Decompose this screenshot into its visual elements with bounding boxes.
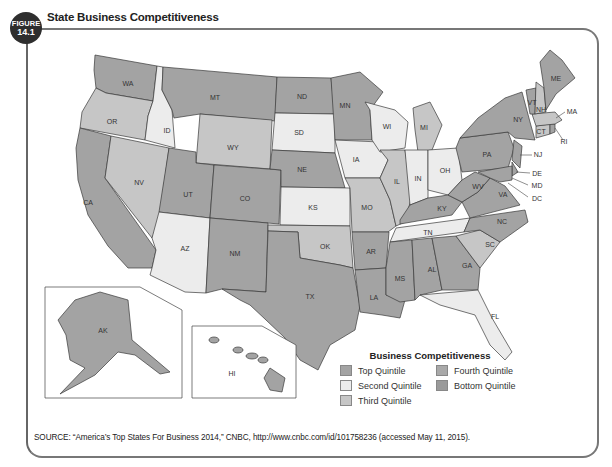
label-WI: WI xyxy=(383,123,392,130)
legend-label: Third Quintile xyxy=(358,396,412,406)
label-HI: HI xyxy=(229,370,236,377)
legend-item-third: Third Quintile xyxy=(340,395,436,406)
label-OR: OR xyxy=(107,118,118,125)
label-MT: MT xyxy=(210,94,221,101)
state-NY xyxy=(460,92,535,140)
label-VA: VA xyxy=(499,191,508,198)
label-CO: CO xyxy=(240,195,251,202)
label-AK: AK xyxy=(98,327,108,334)
label-ND: ND xyxy=(297,93,307,100)
label-MI: MI xyxy=(420,124,428,131)
label-FL: FL xyxy=(491,313,499,320)
label-MS: MS xyxy=(395,275,406,282)
label-LA: LA xyxy=(370,294,379,301)
legend-label: Fourth Quintile xyxy=(454,366,513,376)
label-IN: IN xyxy=(415,175,422,182)
swatch-third xyxy=(340,395,352,406)
label-IA: IA xyxy=(353,156,360,163)
label-TN: TN xyxy=(423,229,432,236)
label-VT: VT xyxy=(528,99,538,106)
label-ID: ID xyxy=(164,127,171,134)
label-NE: NE xyxy=(297,166,307,173)
legend-label: Bottom Quintile xyxy=(454,381,516,391)
legend-label: Second Quintile xyxy=(358,381,422,391)
label-TX: TX xyxy=(306,293,315,300)
swatch-bottom xyxy=(436,380,448,391)
legend-title: Business Competitiveness xyxy=(320,350,540,361)
label-NJ: NJ xyxy=(534,151,543,158)
label-NM: NM xyxy=(230,250,241,257)
label-OH: OH xyxy=(440,167,451,174)
label-KS: KS xyxy=(308,204,318,211)
source-citation: SOURCE: “America’s Top States For Busine… xyxy=(34,433,470,442)
label-MN: MN xyxy=(340,102,351,109)
legend-item-fourth: Fourth Quintile xyxy=(436,365,536,376)
legend: Business Competitiveness Top Quintile Fo… xyxy=(340,350,540,406)
label-MO: MO xyxy=(361,204,373,211)
figure-badge: FIGURE 14.1 xyxy=(10,12,42,44)
legend-item-second: Second Quintile xyxy=(340,380,436,391)
label-WY: WY xyxy=(227,144,239,151)
swatch-top xyxy=(340,365,352,376)
label-CA: CA xyxy=(83,199,93,206)
state-WY xyxy=(196,114,272,169)
state-MS xyxy=(386,240,415,302)
state-MA xyxy=(532,112,562,126)
label-WA: WA xyxy=(122,80,133,87)
label-DE: DE xyxy=(532,170,542,177)
state-NJ xyxy=(512,140,522,168)
label-NY: NY xyxy=(513,116,523,123)
label-NH: NH xyxy=(536,106,546,113)
swatch-fourth xyxy=(436,365,448,376)
label-CT: CT xyxy=(536,128,546,135)
state-RI xyxy=(550,124,555,134)
label-GA: GA xyxy=(462,262,472,269)
label-SD: SD xyxy=(294,129,304,136)
label-WV: WV xyxy=(472,183,484,190)
label-DC: DC xyxy=(532,195,542,202)
swatch-second xyxy=(340,380,352,391)
label-AZ: AZ xyxy=(181,245,191,252)
label-MA: MA xyxy=(567,108,578,115)
label-IL: IL xyxy=(394,178,400,185)
label-NV: NV xyxy=(134,179,144,186)
state-NE xyxy=(270,150,345,188)
label-AR: AR xyxy=(366,248,376,255)
figure-number: 14.1 xyxy=(17,28,35,37)
label-OK: OK xyxy=(320,243,330,250)
label-PA: PA xyxy=(483,151,492,158)
state-AZ xyxy=(150,212,210,293)
label-KY: KY xyxy=(437,205,447,212)
label-AL: AL xyxy=(428,266,437,273)
label-NC: NC xyxy=(497,218,507,225)
label-SC: SC xyxy=(485,241,495,248)
label-UT: UT xyxy=(183,191,193,198)
label-MD: MD xyxy=(532,182,543,189)
legend-item-top: Top Quintile xyxy=(340,365,436,376)
legend-item-bottom: Bottom Quintile xyxy=(436,380,536,391)
label-ME: ME xyxy=(551,75,562,82)
legend-label: Top Quintile xyxy=(358,366,406,376)
label-RI: RI xyxy=(561,138,568,145)
